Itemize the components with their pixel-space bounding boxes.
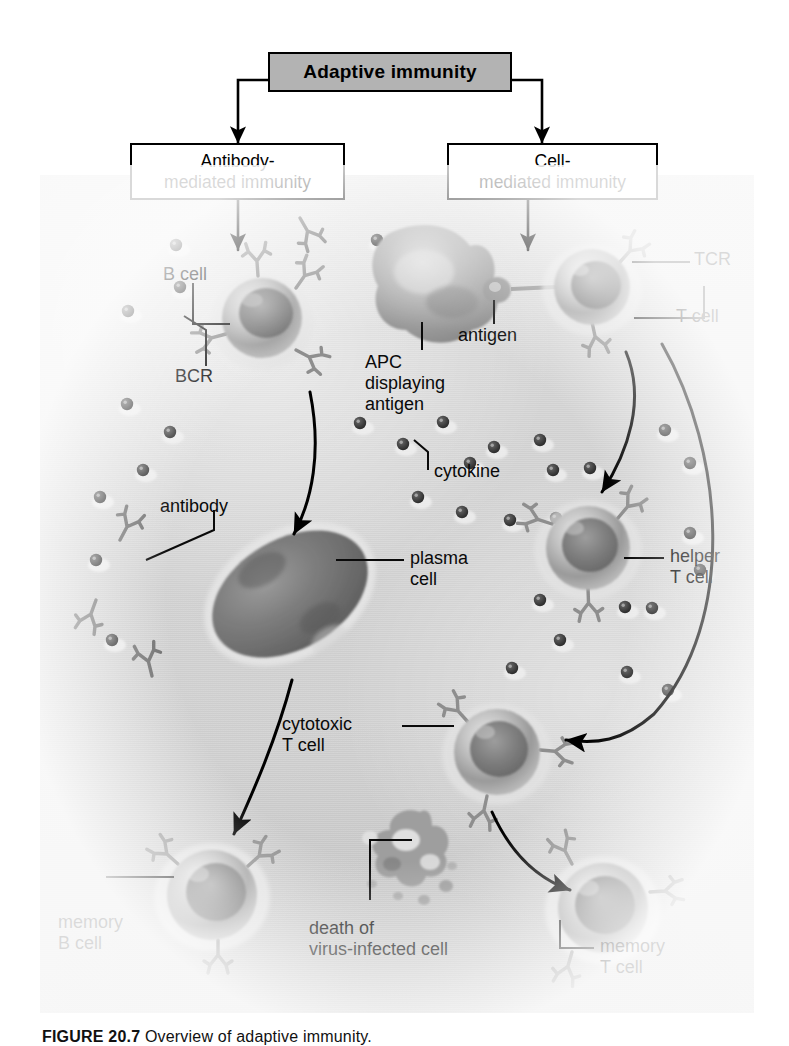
box-cell-mediated-immunity: Cell- mediated immunity [447,143,658,200]
illustration-layer [0,0,789,1046]
cell-plasma-cell [178,493,401,696]
title-box-adaptive-immunity: Adaptive immunity [268,52,512,92]
cytokine-dot [456,506,468,518]
label-tcr: TCR [694,249,731,270]
cytokine-dot [437,416,449,428]
cytokine-dot [164,426,176,438]
label-cytokine: cytokine [434,461,500,482]
cytokine-dot [684,457,696,469]
cytokine-dot [554,634,566,646]
cytokine-dot [547,464,559,476]
box-cell-label: Cell- mediated immunity [479,151,626,192]
label-memory-t-cell: memory T cell [600,936,665,978]
figure-caption: FIGURE 20.7 Overview of adaptive immunit… [42,1028,742,1046]
cell-cytotoxic-t-cell [436,688,575,831]
label-cytotoxic-t-cell: cytotoxic T cell [282,714,400,756]
cytokine-dot [506,662,518,674]
cytokine-dot [488,441,500,453]
cell-memory-b-cell [144,832,282,973]
cytokine-dot [90,554,102,566]
cell-b-cell [191,242,332,378]
cytokine-dot [684,527,696,539]
label-bcr: BCR [175,366,213,387]
cytokine-dot [137,464,149,476]
label-helper-t-cell: helper T cell [670,546,720,588]
figure-caption-number: FIGURE 20.7 [42,1028,140,1045]
cytokine-dot [122,305,134,317]
label-memory-b-cell: memory B cell [58,912,123,954]
cytokine-dot [621,666,633,678]
cytokine-dot [534,434,546,446]
cytokine-dot [584,462,596,474]
cytokine-dot [397,438,409,450]
cytokine-dot [646,602,658,614]
cell-t-cell [542,228,652,357]
cytokine-dot [659,424,671,436]
cytokine-dot [504,514,516,526]
label-plasma-cell: plasma cell [410,548,468,590]
cytokine-dot [534,594,546,606]
cytokine-dot [354,417,366,429]
cytokine-dot [170,239,182,251]
label-death-infected-cell: death of virus-infected cell [309,918,448,960]
label-b-cell: B cell [163,264,207,285]
box-antibody-label: Antibody- mediated immunity [164,151,311,192]
figure-caption-text: Overview of adaptive immunity. [145,1028,372,1045]
dying-infected-cell [362,810,457,905]
cytokine-dot [94,491,106,503]
figure-root: Adaptive immunity Antibody- mediated imm… [0,0,789,1046]
cytokine-dot [619,601,631,613]
cytokine-dot [412,491,424,503]
label-antigen: antigen [458,325,517,346]
label-t-cell: T cell [676,306,719,327]
box-antibody-mediated-immunity: Antibody- mediated immunity [130,143,345,200]
cytokine-dot [106,634,118,646]
label-antibody: antibody [160,496,228,517]
cytokine-dot [121,398,133,410]
label-apc: APC displaying antigen [365,352,445,415]
